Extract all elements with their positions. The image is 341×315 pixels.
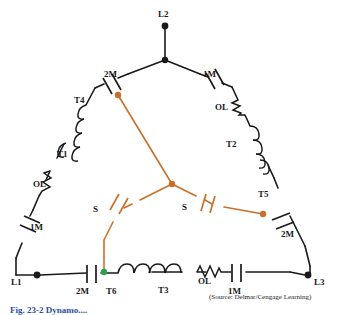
terminal-label-l3: L3 — [314, 278, 325, 287]
terminal-label-l2: L2 — [158, 10, 169, 19]
contact-s-right-plates — [201, 194, 215, 213]
terminal-label-l1: L1 — [11, 278, 22, 287]
contact-label-1m-top-right: 1M — [203, 70, 216, 79]
inner-wye-wiring — [104, 95, 263, 272]
overload-label-right: OL — [215, 103, 228, 112]
contact-1m-bottom-right-plates — [232, 264, 241, 282]
winding-label-t6: T6 — [106, 287, 117, 296]
node-center-wye — [169, 181, 175, 187]
winding-label-t1: T1 — [57, 150, 68, 159]
contact-2m-right-plates — [272, 213, 294, 229]
contact-label-2m-bottom-left: 2M — [76, 287, 89, 296]
node-t5-tap — [260, 211, 266, 217]
overload-label-bottom: OL — [198, 277, 211, 286]
contact-label-1m-left: 1M — [30, 223, 43, 232]
bottom-leg-wiring — [16, 272, 310, 276]
contact-label-s-left: S — [93, 205, 98, 214]
node-l2 — [162, 23, 169, 30]
coil-t2 — [250, 126, 269, 174]
contact-label-2m-top-left: 2M — [104, 70, 117, 79]
winding-label-t3: T3 — [158, 286, 169, 295]
contact-label-s-right: S — [182, 203, 187, 212]
source-note: (Source: Delmar/Cengage Learning) — [209, 293, 311, 301]
node-t6-tap — [101, 269, 107, 275]
winding-label-t5: T5 — [258, 190, 269, 199]
contact-label-2m-right: 2M — [281, 230, 294, 239]
figure-caption: Fig. 23-2 Dynamo.... — [10, 305, 87, 315]
left-leg-wiring — [16, 88, 95, 275]
overload-right-element — [232, 100, 245, 115]
node-l3 — [305, 272, 312, 279]
contact-s-left-plates — [110, 194, 128, 214]
winding-label-t4: T4 — [74, 96, 85, 105]
node-t4-tap — [115, 92, 121, 98]
node-l1 — [34, 272, 41, 279]
winding-label-t2: T2 — [226, 140, 237, 149]
overload-label-left: OL — [33, 180, 46, 189]
node-top-junction — [162, 57, 168, 63]
contact-2m-bottom-left-plates — [87, 265, 96, 283]
